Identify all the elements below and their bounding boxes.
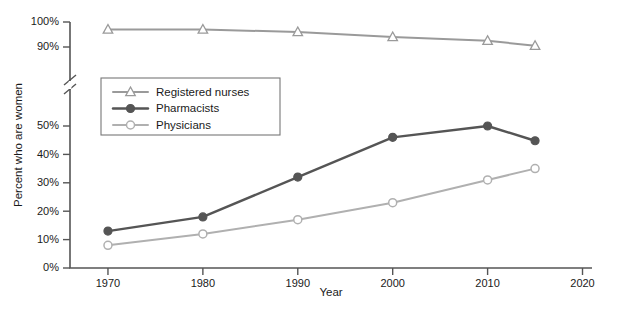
y-axis-title: Percent who are women — [12, 83, 24, 207]
y-tick-label: 30% — [37, 176, 59, 188]
data-point-marker — [484, 122, 492, 130]
data-point-marker — [389, 199, 397, 207]
series-line — [108, 169, 535, 246]
data-point-marker — [294, 216, 302, 224]
series-group — [104, 165, 539, 250]
y-tick-label: 100% — [31, 15, 59, 27]
x-tick-label: 2020 — [570, 277, 594, 289]
y-tick-label: 90% — [37, 40, 59, 52]
x-tick-label: 2000 — [380, 277, 404, 289]
y-tick-label: 40% — [37, 148, 59, 160]
legend-marker-sample — [127, 105, 135, 113]
data-point-marker — [294, 173, 302, 181]
x-tick-label: 1980 — [191, 277, 215, 289]
series-group — [103, 25, 540, 50]
series-line — [108, 30, 535, 46]
data-point-marker — [199, 213, 207, 221]
axis-break-gap — [69, 81, 72, 89]
legend-label: Registered nurses — [156, 86, 250, 98]
data-point-marker — [389, 133, 397, 141]
y-tick-label: 10% — [37, 233, 59, 245]
data-point-marker — [199, 230, 207, 238]
data-point-marker — [104, 227, 112, 235]
legend-label: Physicians — [156, 119, 211, 131]
data-point-marker — [104, 241, 112, 249]
legend: Registered nursesPharmacistsPhysicians — [101, 78, 280, 135]
data-point-marker — [484, 176, 492, 184]
x-tick-label: 2010 — [475, 277, 499, 289]
data-point-marker — [531, 137, 539, 145]
axis-lines — [70, 22, 592, 268]
chart-container: 0%10%20%30%40%50%90%100%1970198019902000… — [0, 0, 620, 311]
legend-label: Pharmacists — [156, 102, 220, 114]
legend-marker-sample — [127, 121, 135, 129]
x-tick-label: 1970 — [96, 277, 120, 289]
y-tick-label: 50% — [37, 119, 59, 131]
y-tick-label: 20% — [37, 205, 59, 217]
x-axis-title: Year — [319, 286, 342, 298]
series-group — [104, 122, 539, 235]
data-point-marker — [531, 165, 539, 173]
x-tick-label: 1990 — [286, 277, 310, 289]
line-chart: 0%10%20%30%40%50%90%100%1970198019902000… — [0, 0, 620, 311]
y-tick-label: 0% — [43, 261, 59, 273]
